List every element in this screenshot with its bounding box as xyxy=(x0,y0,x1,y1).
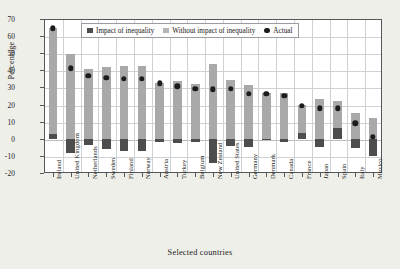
x-tick-mark xyxy=(373,173,374,177)
y-tick-label: 60 xyxy=(0,32,15,41)
legend-label: Without impact of inequality xyxy=(172,27,255,35)
x-tick-mark xyxy=(124,173,125,177)
bar-impact-of-inequality xyxy=(315,139,324,147)
x-axis-title: Selected countries xyxy=(0,248,400,257)
y-tick-label: 70 xyxy=(0,15,15,24)
bar-impact-of-inequality xyxy=(120,139,129,151)
x-tick-label: Spain xyxy=(340,163,347,179)
legend-item: Impact of inequality xyxy=(87,27,154,35)
x-tick-mark xyxy=(338,173,339,177)
chart-figure: Percentage Selected countries -20-100102… xyxy=(0,0,400,269)
x-tick-mark xyxy=(177,173,178,177)
bar-impact-of-inequality xyxy=(351,139,360,149)
x-tick-label: Germany xyxy=(251,154,258,179)
x-tick-mark xyxy=(160,173,161,177)
legend-label: Impact of inequality xyxy=(96,27,154,35)
legend-square-icon xyxy=(87,28,93,34)
x-tick-mark xyxy=(355,173,356,177)
bar-without-impact xyxy=(262,93,271,139)
legend-item: Without impact of inequality xyxy=(163,27,255,35)
bar-without-impact xyxy=(209,64,218,139)
x-tick-mark xyxy=(266,173,267,177)
legend-circle-icon xyxy=(264,28,270,34)
bar-without-impact xyxy=(351,113,360,139)
x-tick-label: Japan xyxy=(322,163,329,179)
x-tick-mark xyxy=(320,173,321,177)
bar-impact-of-inequality xyxy=(155,139,164,142)
y-tick-label: -10 xyxy=(0,151,15,160)
x-tick-label: Finland xyxy=(127,158,134,179)
x-tick-mark xyxy=(142,173,143,177)
x-tick-label: Belgium xyxy=(198,156,205,179)
bar-without-impact xyxy=(84,69,93,139)
x-tick-mark xyxy=(213,173,214,177)
y-tick-label: 30 xyxy=(0,83,15,92)
bar-impact-of-inequality xyxy=(191,139,200,142)
x-tick-mark xyxy=(88,173,89,177)
x-tick-mark xyxy=(284,173,285,177)
y-tick-mark xyxy=(40,173,44,174)
x-tick-label: New Zealand xyxy=(216,143,223,179)
bar-impact-of-inequality xyxy=(262,139,271,141)
bar-impact-of-inequality xyxy=(244,139,253,147)
chart-legend: Impact of inequalityWithout impact of in… xyxy=(81,23,299,38)
bar-impact-of-inequality xyxy=(280,139,289,142)
bar-without-impact xyxy=(280,93,289,139)
bar-impact-of-inequality xyxy=(369,139,378,156)
x-tick-mark xyxy=(71,173,72,177)
x-tick-label: Italy xyxy=(358,166,365,179)
x-tick-label: Ireland xyxy=(55,160,62,179)
bar-impact-of-inequality xyxy=(49,134,58,139)
bar-without-impact xyxy=(155,83,164,139)
x-tick-mark xyxy=(106,173,107,177)
bar-without-impact xyxy=(191,84,200,138)
bar-impact-of-inequality xyxy=(173,139,182,143)
bar-impact-of-inequality xyxy=(138,139,147,151)
x-tick-mark xyxy=(53,173,54,177)
x-tick-label: France xyxy=(305,160,312,179)
x-tick-label: Canada xyxy=(287,159,294,179)
y-tick-label: 20 xyxy=(0,100,15,109)
x-tick-mark xyxy=(249,173,250,177)
y-tick-label: 50 xyxy=(0,49,15,58)
x-tick-label: Austria xyxy=(162,159,169,179)
x-tick-label: Norway xyxy=(144,157,151,179)
x-tick-label: Sweden xyxy=(109,158,116,179)
legend-square-icon xyxy=(163,28,169,34)
y-tick-label: 10 xyxy=(0,117,15,126)
bar-without-impact xyxy=(49,28,58,138)
x-tick-label: Mexico xyxy=(376,158,383,179)
x-tick-mark xyxy=(195,173,196,177)
y-tick-label: 40 xyxy=(0,66,15,75)
x-tick-mark xyxy=(302,173,303,177)
bar-without-impact xyxy=(173,81,182,139)
x-tick-mark xyxy=(231,173,232,177)
legend-label: Actual xyxy=(273,27,292,35)
x-tick-label: Netherlands xyxy=(91,146,98,179)
bar-impact-of-inequality xyxy=(298,133,307,139)
legend-item: Actual xyxy=(264,27,292,35)
y-tick-label: -20 xyxy=(0,169,15,178)
y-tick-label: 0 xyxy=(0,134,15,143)
bar-impact-of-inequality xyxy=(102,139,111,149)
bar-impact-of-inequality xyxy=(333,128,342,139)
x-tick-label: Denmark xyxy=(269,154,276,179)
x-tick-label: United Kingdom xyxy=(73,133,80,179)
x-tick-label: United States xyxy=(233,142,240,179)
bar-impact-of-inequality xyxy=(84,139,93,145)
x-tick-label: Turkey xyxy=(180,160,187,179)
